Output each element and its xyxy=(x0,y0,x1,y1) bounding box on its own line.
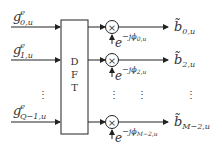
multiplier-icon-2: × xyxy=(106,116,119,129)
input-label-2: geQ−1,u xyxy=(13,102,46,121)
output-label-1: b̃2,u xyxy=(174,51,195,69)
svg-text:×: × xyxy=(108,55,116,66)
dft-phase-diagram: ge0,u ge1,u geQ−1,u ⋮ D F T × × × e−jϕ0,… xyxy=(0,0,222,149)
svg-text:×: × xyxy=(108,22,116,33)
svg-text:×: × xyxy=(108,117,116,128)
dft-label-f: F xyxy=(71,69,78,80)
dft-label-t: T xyxy=(71,82,78,93)
phase-label-2: e−jϕM−2,u xyxy=(115,127,158,145)
input-label-0: ge0,u xyxy=(13,8,33,27)
multiplier-icon-1: × xyxy=(106,54,119,67)
mult-ellipsis: ⋮ xyxy=(109,89,119,100)
phase-label-1: e−jϕ2,u xyxy=(115,65,146,83)
multiplier-icon-0: × xyxy=(106,21,119,34)
phase-label-0: e−jϕ0,u xyxy=(115,32,146,50)
output-label-0: b̃0,u xyxy=(174,18,195,36)
mid-ellipsis: ⋮ xyxy=(137,89,147,100)
input-ellipsis: ⋮ xyxy=(38,89,48,100)
dft-label-d: D xyxy=(70,56,78,67)
output-ellipsis: ⋮ xyxy=(186,89,196,100)
input-label-1: ge1,u xyxy=(13,41,33,60)
output-label-2: b̃M−2,u xyxy=(174,113,210,131)
